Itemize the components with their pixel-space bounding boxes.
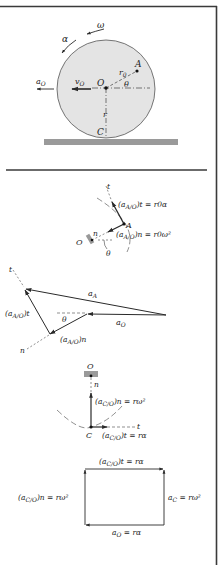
- aO-label: aO: [116, 318, 126, 328]
- theta-arc: [104, 240, 107, 249]
- aAO-n-label: (aA/O)n: [60, 335, 87, 345]
- aAO-n-vector-icon: [50, 314, 87, 334]
- aCO-t-label: (aC/O)t = rα: [99, 457, 144, 467]
- point-O: [90, 375, 93, 378]
- omega-label: ω: [97, 20, 105, 30]
- t-label: t: [137, 422, 141, 431]
- aAO-t-equation: (aA/O)t = r0α: [118, 200, 167, 210]
- panel-disk: ω α aO vO O A r0 θ r C: [36, 20, 178, 145]
- theta-label: θ: [62, 315, 67, 324]
- C-label: C: [86, 431, 92, 440]
- C-label: C: [97, 127, 104, 137]
- A-label: A: [134, 59, 142, 69]
- n-axis: [27, 335, 49, 349]
- t-axis: [13, 270, 24, 287]
- A-label: A: [125, 221, 132, 230]
- O-label: O: [97, 78, 105, 88]
- t-label: t: [9, 265, 13, 274]
- n-label: n: [20, 346, 25, 355]
- point-A: [135, 69, 138, 72]
- O-label: O: [87, 362, 94, 371]
- aO-label: aO = rα: [112, 528, 141, 538]
- n-label: n: [93, 229, 98, 238]
- O-label: O: [76, 238, 83, 247]
- point-C: [89, 425, 92, 428]
- panel-A-components: t A O n θ (aA/O)t = r0α (aA/O)n = r0ω²: [76, 182, 171, 258]
- panel-C-components: O n t C (aC/O)n = rω² (aC/O)t = rα: [57, 362, 147, 441]
- aA-label: aA: [88, 289, 98, 299]
- aO-vector-icon: [88, 314, 166, 315]
- aAO-t-label: (aA/O)t: [5, 309, 31, 319]
- theta-label: θ: [106, 249, 111, 258]
- kinematics-figure: ω α aO vO O A r0 θ r C t: [0, 0, 222, 565]
- panel-vector-polygon: t n aA aO θ (aA/O)t (aA/O)n: [5, 265, 166, 355]
- n-label: n: [94, 380, 99, 389]
- theta-label: θ: [124, 80, 129, 89]
- alpha-label: α: [62, 34, 68, 44]
- ground: [44, 139, 178, 145]
- t-label: t: [107, 182, 111, 191]
- aO-label: aO: [36, 77, 46, 87]
- aCO-n-label: (aC/O)n = rω²: [18, 493, 68, 503]
- panel-C-rectangle: (aC/O)t = rα (aC/O)n = rω² aC = rω² aO =…: [18, 457, 201, 538]
- point-O: [91, 239, 94, 242]
- aCO-t-equation: (aC/O)t = rα: [102, 431, 147, 441]
- path-arc: [57, 406, 122, 428]
- aC-label: aC = rω²: [168, 493, 201, 503]
- aCO-n-equation: (aC/O)n = rω²: [95, 397, 145, 407]
- point-O: [104, 86, 108, 90]
- aAO-n-equation: (aA/O)n = r0ω²: [116, 230, 171, 240]
